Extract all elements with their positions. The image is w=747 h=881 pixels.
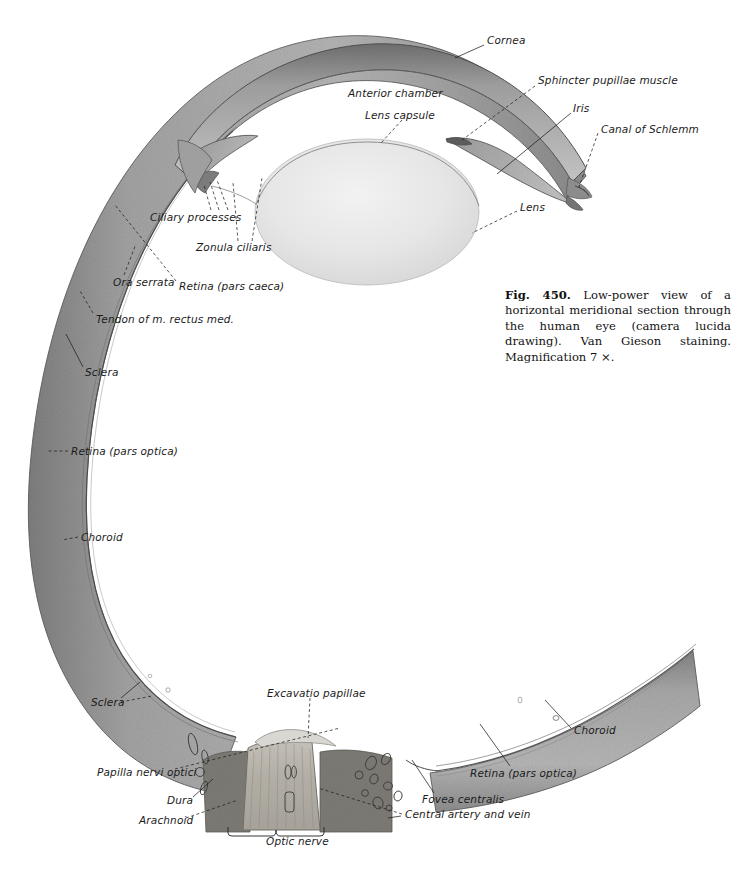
label-excavatio-papillae: Excavatio papillae xyxy=(267,688,366,699)
label-iris: Iris xyxy=(573,103,589,114)
label-retina-pars-optica-left: Retina (pars optica) xyxy=(71,446,178,457)
label-retina-pars-caeca: Retina (pars caeca) xyxy=(179,281,284,292)
sclera-band xyxy=(28,36,586,793)
label-zonula-ciliaris: Zonula ciliaris xyxy=(196,242,272,253)
label-sphincter-pupillae: Sphincter pupillae muscle xyxy=(538,75,678,86)
leader-choroid-right xyxy=(545,700,571,728)
label-choroid-right: Choroid xyxy=(574,725,616,736)
label-ora-serrata: Ora serrata xyxy=(113,277,175,288)
lens xyxy=(255,139,479,285)
lens-body xyxy=(255,139,479,285)
fovea-centralis-dip xyxy=(406,760,438,771)
label-tendon-rectus-med: Tendon of m. rectus med. xyxy=(96,314,234,325)
label-anterior-chamber: Anterior chamber xyxy=(348,88,443,99)
label-central-artery-and-vein: Central artery and vein xyxy=(405,809,531,820)
label-papilla-nervi-optici: Papilla nervi optici xyxy=(97,767,197,778)
label-lens-capsule: Lens capsule xyxy=(365,110,435,121)
label-choroid-left: Choroid xyxy=(81,532,123,543)
figure-number: Fig. 450. xyxy=(505,288,571,302)
figure-caption: Fig. 450. Low-power view of a horizontal… xyxy=(505,288,731,365)
leader-ciliary-3 xyxy=(217,180,228,210)
label-lens: Lens xyxy=(520,202,545,213)
ciliary-body-left xyxy=(178,135,258,204)
label-sclera-lower: Sclera xyxy=(91,697,124,708)
optic-nerve-trunk xyxy=(243,739,320,830)
leader-ciliary-2 xyxy=(210,182,219,210)
label-optic-nerve: Optic nerve xyxy=(266,836,329,847)
label-dura: Dura xyxy=(167,795,193,806)
label-arachnoid: Arachnoid xyxy=(139,815,193,826)
label-fovea-centralis: Fovea centralis xyxy=(422,794,504,805)
label-canal-of-schlemm: Canal of Schlemm xyxy=(601,124,699,135)
label-retina-pars-optica-right: Retina (pars optica) xyxy=(470,768,577,779)
label-sclera-upper: Sclera xyxy=(85,367,118,378)
label-ciliary-processes: Ciliary processes xyxy=(150,212,241,223)
dura-left-block xyxy=(203,751,250,832)
label-cornea: Cornea xyxy=(487,35,526,46)
leader-cornea xyxy=(455,45,484,58)
